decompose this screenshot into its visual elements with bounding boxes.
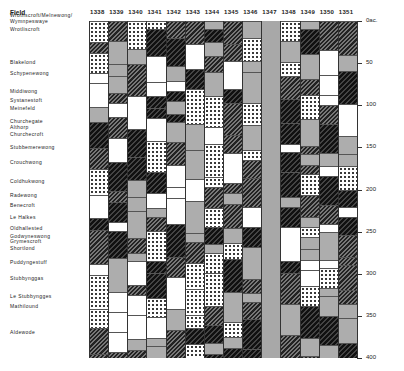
rotation-cell — [339, 104, 357, 136]
year-column — [146, 21, 165, 358]
rotation-cell — [224, 259, 242, 292]
axis-tick-label: 0ac. — [366, 17, 377, 23]
year-header: 1347 — [262, 9, 277, 15]
rotation-cell — [205, 72, 223, 96]
field-label: Wrotliscroft — [10, 26, 40, 32]
rotation-cell — [147, 29, 165, 56]
rotation-cell — [224, 135, 242, 153]
rotation-cell — [90, 21, 108, 42]
year-header: 1349 — [301, 9, 316, 15]
rotation-cell — [167, 309, 185, 330]
rotation-cell — [339, 217, 357, 235]
rotation-cell — [109, 312, 127, 332]
rotation-cell — [224, 61, 242, 89]
rotation-cell — [301, 95, 319, 119]
year-header: 1342 — [167, 9, 182, 15]
rotation-cell — [167, 81, 185, 91]
axis-tick-label: 250 — [366, 228, 376, 234]
rotation-cell — [339, 71, 357, 104]
rotation-cell — [147, 231, 165, 261]
rotation-cell — [167, 142, 185, 165]
rotation-cell — [320, 75, 338, 95]
rotation-cell — [224, 228, 242, 243]
rotation-cell — [243, 178, 261, 207]
rotation-cell — [243, 227, 261, 247]
rotation-cell — [128, 157, 146, 180]
rotation-cell — [186, 263, 204, 289]
field-label: Aldewode — [10, 329, 35, 335]
rotation-cell — [320, 166, 338, 176]
axis-tick — [357, 232, 362, 233]
rotation-cell — [243, 319, 261, 349]
rotation-cell — [167, 101, 185, 114]
rotation-cell — [281, 261, 299, 273]
field-label: Meinefeld — [10, 105, 35, 111]
rotation-cell — [339, 343, 357, 358]
rotation-cell — [243, 279, 261, 293]
rotation-cell — [301, 54, 319, 79]
year-column — [204, 21, 223, 358]
rotation-cell — [128, 21, 146, 49]
rotation-cell — [320, 124, 338, 153]
rotation-cell — [243, 150, 261, 160]
axis-tick — [357, 147, 362, 148]
rotation-cell — [128, 96, 146, 129]
rotation-cell — [339, 265, 357, 290]
rotation-cell — [167, 38, 185, 66]
rotation-cell — [205, 177, 223, 187]
rotation-cell — [167, 21, 185, 38]
rotation-cell — [301, 146, 319, 154]
rotation-cell — [109, 103, 127, 117]
rotation-cell — [301, 119, 319, 146]
rotation-cell — [320, 232, 338, 260]
rotation-cell — [90, 148, 108, 169]
rotation-cell — [109, 292, 127, 312]
rotation-cell — [128, 339, 146, 350]
rotation-cell — [186, 289, 204, 315]
year-header: 1346 — [243, 9, 258, 15]
axis-tick-label: 100 — [366, 101, 376, 107]
rotation-cell — [320, 153, 338, 166]
rotation-cell — [281, 21, 299, 41]
rotation-cell — [128, 350, 146, 358]
rotation-cell — [186, 21, 204, 44]
year-column — [300, 21, 319, 358]
rotation-cell — [301, 21, 319, 29]
rotation-cell — [186, 69, 204, 89]
axis-tick — [357, 274, 362, 275]
rotation-cell — [281, 41, 299, 62]
rotation-cell — [320, 21, 338, 50]
rotation-cell — [281, 273, 299, 304]
rotation-cell — [243, 38, 261, 61]
rotation-cell — [186, 179, 204, 201]
axis-tick-label: 400 — [366, 354, 376, 360]
rotation-cell — [147, 193, 165, 208]
rotation-cell — [205, 273, 223, 306]
rotation-cell — [301, 79, 319, 95]
year-header: 1345 — [224, 9, 239, 15]
rotation-cell — [224, 89, 242, 103]
rotation-cell — [167, 91, 185, 101]
field-label: Coldhukwong — [10, 178, 45, 184]
field-label: Mathilound — [10, 303, 38, 309]
rotation-cell — [186, 124, 204, 150]
rotation-cell — [128, 253, 146, 261]
rotation-cell — [224, 44, 242, 61]
rotation-cell — [205, 127, 223, 144]
rotation-cell — [128, 238, 146, 253]
year-column — [338, 21, 357, 358]
rotation-cell — [90, 309, 108, 328]
rotation-cell — [109, 162, 127, 191]
rotation-cell — [320, 296, 338, 316]
rotation-cell — [167, 122, 185, 142]
rotation-cell — [281, 335, 299, 358]
rotation-cell — [224, 204, 242, 228]
rotation-cell — [109, 117, 127, 138]
rotation-cell — [224, 193, 242, 204]
rotation-cell — [128, 64, 146, 96]
rotation-cell — [320, 50, 338, 75]
rotation-cell — [90, 195, 108, 218]
rotation-cell — [205, 253, 223, 273]
rotation-cell — [301, 338, 319, 356]
year-column — [108, 21, 127, 358]
